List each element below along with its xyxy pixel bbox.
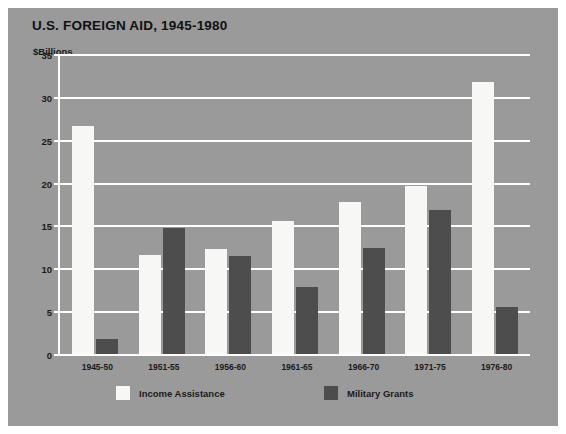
y-axis-tick-mark	[54, 97, 58, 99]
legend-label: Military Grants	[347, 388, 414, 399]
x-axis-tick-label: 1945-50	[82, 362, 113, 372]
bar-income-assistance	[472, 82, 494, 354]
y-axis-tick-label: 15	[41, 221, 52, 232]
y-axis-tick-mark	[54, 225, 58, 227]
bar-military-grants	[363, 248, 385, 354]
y-axis-tick-label: 30	[41, 92, 52, 103]
bar-military-grants	[496, 307, 518, 354]
x-axis-tick-label: 1966-70	[348, 362, 379, 372]
bar-military-grants	[96, 339, 118, 354]
legend-swatch-icon	[324, 386, 338, 400]
x-axis-tick-label: 1951-55	[148, 362, 179, 372]
bar-income-assistance	[139, 255, 161, 354]
y-axis-tick-mark	[54, 54, 58, 56]
y-axis-tick-label: 10	[41, 264, 52, 275]
y-axis-tick-label: 25	[41, 135, 52, 146]
y-axis-tick-label: 5	[47, 307, 52, 318]
y-axis-tick-mark	[54, 183, 58, 185]
bar-military-grants	[296, 287, 318, 354]
bar-group: 1956-60	[197, 54, 264, 356]
bar-group: 1976-80	[463, 54, 530, 356]
bar-group: 1961-65	[264, 54, 331, 356]
y-axis-tick-mark	[54, 268, 58, 270]
x-axis-tick-label: 1956-60	[215, 362, 246, 372]
bar-income-assistance	[205, 249, 227, 354]
page-title: U.S. FOREIGN AID, 1945-1980	[32, 18, 227, 33]
x-axis-tick-label: 1961-65	[281, 362, 312, 372]
y-axis-tick-label: 35	[41, 50, 52, 61]
legend: Income Assistance Military Grants	[58, 386, 530, 406]
y-axis-tick-label: 0	[47, 350, 52, 361]
bar-group: 1971-75	[397, 54, 464, 356]
bar-income-assistance	[272, 221, 294, 354]
legend-label: Income Assistance	[139, 388, 225, 399]
bar-military-grants	[163, 228, 185, 354]
y-axis-tick-mark	[54, 140, 58, 142]
bar-income-assistance	[405, 186, 427, 354]
bar-group: 1966-70	[330, 54, 397, 356]
bar-group: 1945-50	[64, 54, 131, 356]
legend-item-income-assistance: Income Assistance	[116, 386, 225, 400]
chart-figure: U.S. FOREIGN AID, 1945-1980 $Billions 19…	[8, 8, 558, 426]
y-axis-tick-mark	[54, 354, 58, 356]
y-axis-tick-label: 20	[41, 178, 52, 189]
plot-area: 1945-501951-551956-601961-651966-701971-…	[58, 54, 530, 356]
bar-military-grants	[429, 210, 451, 354]
legend-item-military-grants: Military Grants	[324, 386, 414, 400]
y-axis-tick-mark	[54, 311, 58, 313]
x-axis-tick-label: 1971-75	[415, 362, 446, 372]
bar-income-assistance	[339, 202, 361, 354]
legend-swatch-icon	[116, 386, 130, 400]
bar-group: 1951-55	[131, 54, 198, 356]
bar-military-grants	[229, 256, 251, 354]
x-axis-tick-label: 1976-80	[481, 362, 512, 372]
bar-income-assistance	[72, 126, 94, 354]
